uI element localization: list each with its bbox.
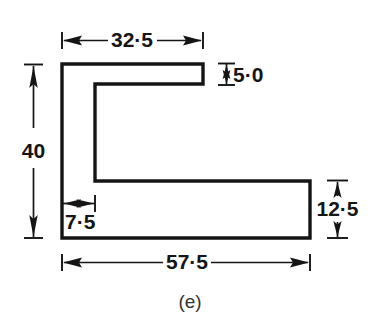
dimension-label-overall-width: 57·5 [166,250,208,273]
technical-drawing-figure: 32·5 5·0 40 7·5 [0,0,379,325]
dimension-label-web-thickness: 7·5 [65,210,96,233]
dimension-label-overall-height: 40 [22,139,45,162]
dimension-label-bottom-flange-height: 12·5 [316,197,358,220]
dimension-label-flange-thickness: 5·0 [233,63,263,86]
canvas-background [0,0,379,325]
dimension-label-top-width: 32·5 [111,28,153,51]
figure-caption: (e) [178,291,201,312]
drawing-canvas: 32·5 5·0 40 7·5 [0,0,379,325]
